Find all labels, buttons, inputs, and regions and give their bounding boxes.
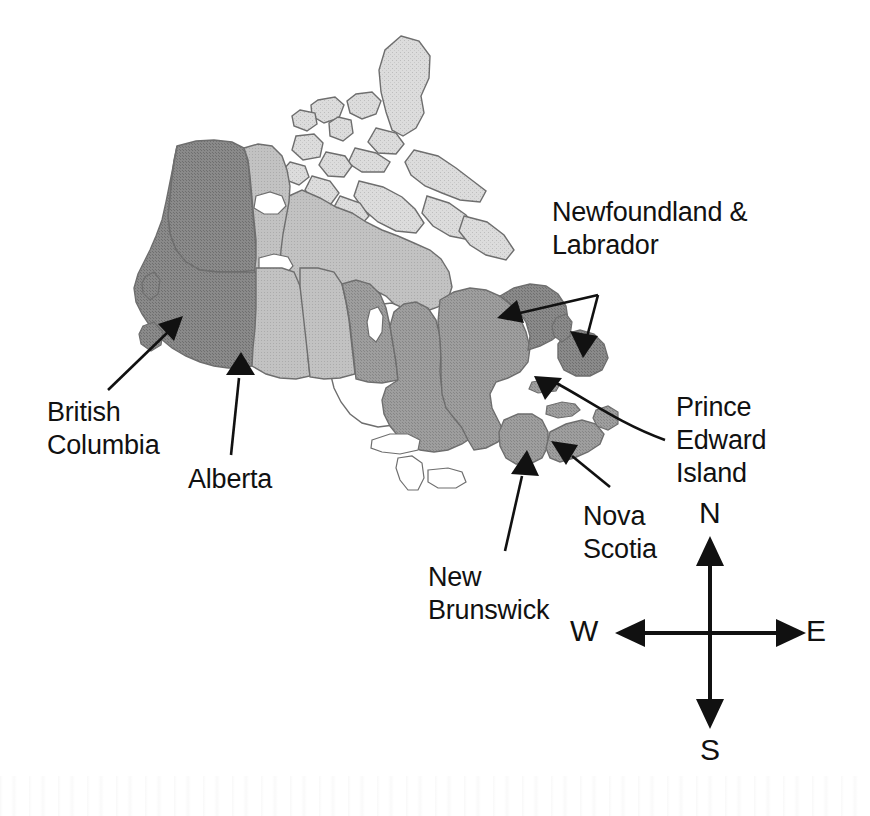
compass-east-arrowhead	[776, 619, 806, 647]
label-nova-scotia: Nova Scotia	[583, 500, 657, 566]
compass-label-east: E	[806, 616, 826, 646]
compass-label-north: N	[699, 498, 721, 528]
compass-south-arrowhead	[696, 699, 724, 729]
region-prince-edward-island	[546, 402, 580, 418]
compass-label-west: W	[570, 616, 598, 646]
lake-superior	[371, 434, 420, 454]
map-figure: British Columbia Alberta Newfoundland & …	[0, 0, 870, 816]
compass-north-arrowhead	[696, 536, 724, 566]
label-prince-edward-island: Prince Edward Island	[676, 391, 766, 490]
compass-label-south: S	[700, 735, 720, 765]
leader-new-brunswick	[505, 450, 539, 551]
region-yukon	[168, 140, 258, 272]
lake-erie-ontario	[428, 468, 466, 488]
compass-west-arrowhead	[615, 619, 645, 647]
label-new-brunswick: New Brunswick	[428, 561, 549, 627]
lake-michigan-huron	[396, 456, 424, 490]
region-nova-scotia	[546, 420, 604, 462]
label-alberta: Alberta	[188, 463, 272, 496]
lake-great-bear	[254, 192, 286, 214]
label-newfoundland-labrador: Newfoundland & Labrador	[552, 196, 747, 262]
label-british-columbia: British Columbia	[47, 396, 159, 462]
